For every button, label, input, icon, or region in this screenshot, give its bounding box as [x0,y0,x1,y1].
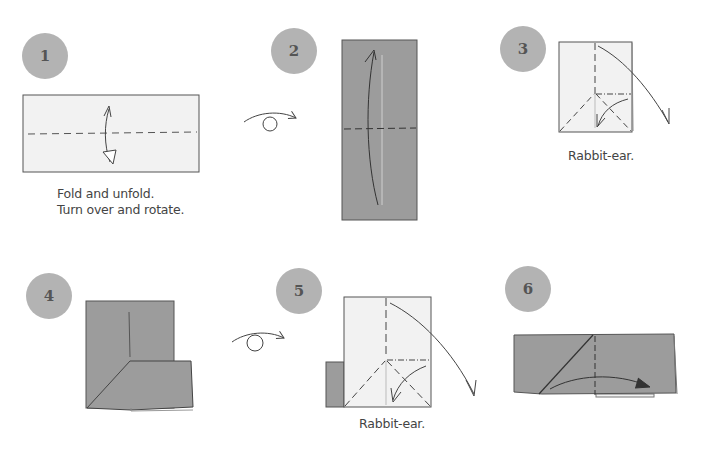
step-1-diagram [23,95,199,172]
turn-over-icon [232,333,284,351]
step-2-diagram [342,40,417,220]
origami-diagram [0,0,709,454]
step-5-diagram [326,297,476,407]
step-4-diagram [86,301,193,411]
turn-over-icon [244,113,296,131]
step-6-diagram [514,334,677,397]
step-3-diagram [559,42,669,132]
